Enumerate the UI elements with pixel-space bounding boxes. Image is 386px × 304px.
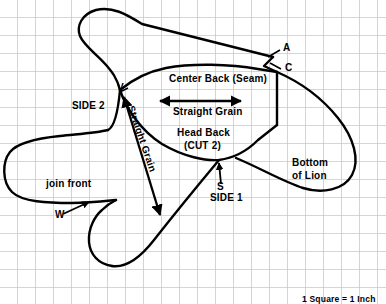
- label-side-2: SIDE 2: [72, 100, 105, 111]
- label-point-a: A: [283, 42, 290, 53]
- label-scale-note: 1 Square = 1 Inch: [302, 294, 376, 304]
- label-head-back: Head Back: [177, 127, 230, 138]
- label-point-s: S: [217, 181, 224, 192]
- label-center-back-seam: Center Back (Seam): [169, 73, 267, 84]
- label-join-front: join front: [46, 178, 91, 189]
- label-point-v: V: [117, 82, 124, 93]
- label-side-1: SIDE 1: [210, 192, 243, 203]
- label-cut-count: (CUT 2): [184, 140, 221, 151]
- pattern-svg: [0, 0, 386, 304]
- label-bottom-of-lion-line2: of Lion: [292, 170, 327, 181]
- label-point-c: C: [285, 62, 292, 73]
- label-bottom-of-lion-line1: Bottom: [292, 157, 328, 168]
- pattern-diagram-canvas: Center Back (Seam) Straight Grain Straig…: [0, 0, 386, 304]
- label-point-w: W: [55, 209, 65, 220]
- grid-lines: [0, 0, 386, 304]
- label-straight-grain-horizontal: Straight Grain: [173, 106, 242, 117]
